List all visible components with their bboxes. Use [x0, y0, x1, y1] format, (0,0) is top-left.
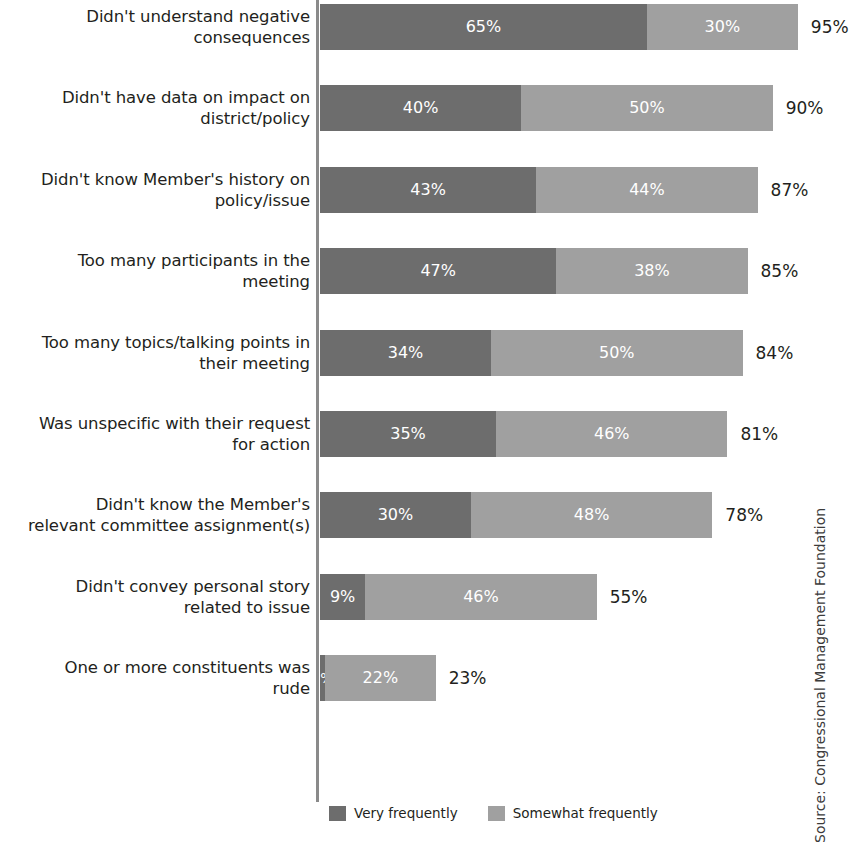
bar-segment-value: 9%	[330, 589, 355, 605]
category-label: Too many topics/talking points in their …	[10, 332, 310, 374]
bar-segment-value: 44%	[629, 182, 665, 198]
bar-row: Too many topics/talking points in their …	[0, 330, 853, 376]
bar-segment-value: 22%	[363, 670, 399, 686]
category-label: Too many participants in the meeting	[10, 250, 310, 292]
bar-segment-value: 30%	[378, 507, 414, 523]
bar-segment-very-frequently: 30%	[320, 492, 471, 538]
bar-track: 40%50%	[320, 85, 773, 131]
legend-item[interactable]: Somewhat frequently	[488, 805, 658, 821]
legend-swatch-icon	[488, 806, 505, 821]
bar-total-label: 90%	[786, 98, 824, 118]
bar-total-label: 55%	[610, 587, 648, 607]
bar-row: Too many participants in the meeting47%3…	[0, 248, 853, 294]
bar-segment-very-frequently: 35%	[320, 411, 496, 457]
bar-total-label: 84%	[756, 343, 794, 363]
source-note: Source: Congressional Management Foundat…	[812, 443, 828, 843]
bar-segment-very-frequently: 34%	[320, 330, 491, 376]
legend-label: Very frequently	[354, 805, 458, 821]
bar-segment-somewhat-frequently: 46%	[365, 574, 596, 620]
bar-track: 34%50%	[320, 330, 743, 376]
bar-segment-very-frequently: 47%	[320, 248, 556, 294]
bar-segment-somewhat-frequently: 48%	[471, 492, 712, 538]
bar-segment-very-frequently: 65%	[320, 4, 647, 50]
bar-segment-value: 50%	[599, 345, 635, 361]
category-label: Didn't know Member's history on policy/i…	[10, 169, 310, 211]
bar-segment-value: 46%	[594, 426, 630, 442]
bar-total-label: 95%	[811, 17, 849, 37]
bar-segment-somewhat-frequently: 50%	[521, 85, 773, 131]
bar-segment-value: 46%	[463, 589, 499, 605]
chart-legend: Very frequentlySomewhat frequently	[329, 805, 688, 821]
bar-track: 47%38%	[320, 248, 748, 294]
bar-segment-somewhat-frequently: 46%	[496, 411, 727, 457]
legend-label: Somewhat frequently	[513, 805, 658, 821]
bar-total-label: 85%	[761, 261, 799, 281]
bar-segment-somewhat-frequently: 50%	[491, 330, 743, 376]
bar-row: Didn't know Member's history on policy/i…	[0, 167, 853, 213]
bar-track: 30%48%	[320, 492, 712, 538]
bar-segment-value: 38%	[634, 263, 670, 279]
bar-segment-value: 35%	[390, 426, 426, 442]
category-label: Didn't convey personal story related to …	[10, 576, 310, 618]
bar-row: Didn't have data on impact on district/p…	[0, 85, 853, 131]
category-label: Didn't understand negative consequences	[10, 6, 310, 48]
bar-segment-value: 43%	[410, 182, 446, 198]
bar-track: 43%44%	[320, 167, 758, 213]
bar-segment-value: 30%	[705, 19, 741, 35]
bar-row: One or more constituents was rude1%22%23…	[0, 655, 853, 701]
bar-track: 35%46%	[320, 411, 727, 457]
bar-row: Didn't convey personal story related to …	[0, 574, 853, 620]
bar-segment-value: 48%	[574, 507, 610, 523]
bar-row: Didn't know the Member's relevant commit…	[0, 492, 853, 538]
category-label: Was unspecific with their request for ac…	[10, 413, 310, 455]
bar-segment-somewhat-frequently: 30%	[647, 4, 798, 50]
bar-segment-value: 47%	[420, 263, 456, 279]
bar-segment-very-frequently: 43%	[320, 167, 536, 213]
bar-track: 9%46%	[320, 574, 597, 620]
bar-segment-value: 40%	[403, 100, 439, 116]
bar-segment-very-frequently: 40%	[320, 85, 521, 131]
category-label: Didn't know the Member's relevant commit…	[10, 494, 310, 536]
bar-segment-somewhat-frequently: 44%	[536, 167, 757, 213]
bar-segment-somewhat-frequently: 22%	[325, 655, 436, 701]
bar-total-label: 23%	[449, 668, 487, 688]
category-label: Didn't have data on impact on district/p…	[10, 87, 310, 129]
bar-row: Was unspecific with their request for ac…	[0, 411, 853, 457]
bar-total-label: 87%	[771, 180, 809, 200]
bar-segment-somewhat-frequently: 38%	[556, 248, 747, 294]
bar-segment-value: 34%	[388, 345, 424, 361]
bar-total-label: 81%	[740, 424, 778, 444]
bar-track: 1%22%	[320, 655, 436, 701]
legend-item[interactable]: Very frequently	[329, 805, 458, 821]
bar-row: Didn't understand negative consequences6…	[0, 4, 853, 50]
bar-segment-very-frequently: 9%	[320, 574, 365, 620]
category-label: One or more constituents was rude	[10, 657, 310, 699]
bar-total-label: 78%	[725, 505, 763, 525]
bar-segment-value: 65%	[466, 19, 502, 35]
bar-track: 65%30%	[320, 4, 798, 50]
bar-segment-value: 50%	[629, 100, 665, 116]
legend-swatch-icon	[329, 806, 346, 821]
